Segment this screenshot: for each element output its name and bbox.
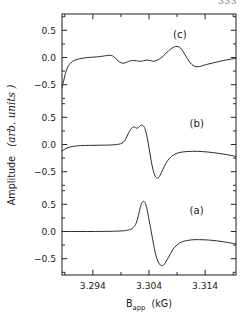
x-axis-title-subscript: app <box>133 304 146 312</box>
trace-label-c: (c) <box>173 29 187 40</box>
x-tick-label: 3.314 <box>192 281 218 291</box>
plot-frame <box>62 14 236 275</box>
y-tick-label: −0.5 <box>34 80 56 90</box>
x-tick-label: 3.294 <box>80 281 106 291</box>
figure-container: 333 0.50.0−0.50.50.0−0.50.50.0−0.5 3.294… <box>0 0 243 319</box>
trace-label-b: (b) <box>189 118 203 129</box>
y-tick-label: 0.5 <box>42 26 56 36</box>
y-tick-labels: 0.50.0−0.50.50.0−0.50.50.0−0.5 <box>34 26 56 264</box>
axis-ticks <box>62 14 236 275</box>
y-axis-title-units: (arb. units ) <box>5 85 17 147</box>
y-tick-label: −0.5 <box>34 167 56 177</box>
x-tick-label: 3.304 <box>136 281 162 291</box>
x-tick-labels: 3.2943.3043.314 <box>80 281 219 291</box>
y-tick-label: 0.5 <box>42 200 56 210</box>
page-number: 333 <box>218 0 237 6</box>
y-tick-label: 0.0 <box>42 227 57 237</box>
y-axis-title: Amplitude (arb. units ) <box>5 85 17 205</box>
y-tick-label: −0.5 <box>34 254 56 264</box>
trace-a <box>62 201 236 265</box>
data-traces <box>62 46 236 265</box>
y-tick-label: 0.0 <box>42 140 57 150</box>
y-axis-title-main: Amplitude <box>6 156 17 205</box>
trace-b <box>62 125 236 178</box>
svg-text:Amplitude (a: Amplitude (arb. units ) <box>5 85 17 205</box>
trace-annotations: (a)(b)(c) <box>173 29 204 216</box>
trace-c <box>62 46 236 88</box>
y-tick-label: 0.5 <box>42 113 56 123</box>
trace-label-a: (a) <box>190 205 204 216</box>
y-tick-label: 0.0 <box>42 53 57 63</box>
chart-svg: 0.50.0−0.50.50.0−0.50.50.0−0.5 3.2943.30… <box>0 0 243 319</box>
x-axis-title: Bapp (kG) <box>126 298 172 312</box>
svg-text:Bapp (kG): Bapp (kG) <box>126 298 172 312</box>
x-axis-title-units: (kG) <box>152 298 172 309</box>
